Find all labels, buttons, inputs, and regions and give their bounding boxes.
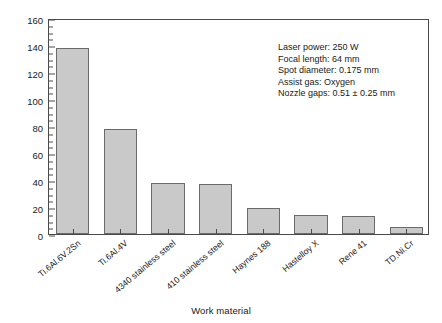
y-tick-minor <box>49 87 53 88</box>
y-tick-minor <box>49 26 53 27</box>
y-tick-major <box>49 74 55 75</box>
annotation-line-assist-gas: Assist gas: Oxygen <box>278 77 395 89</box>
y-tick-minor <box>49 40 53 41</box>
x-tick <box>263 229 264 234</box>
y-tick-minor <box>49 148 53 149</box>
y-tick-label: 60 <box>32 150 43 161</box>
x-tick <box>216 229 217 234</box>
y-tick-major <box>49 101 55 102</box>
y-tick-minor <box>49 222 53 223</box>
y-tick-label: 0 <box>38 231 43 242</box>
y-tick-major <box>49 209 55 210</box>
y-tick-minor <box>49 195 53 196</box>
x-tick-label-text: Ti.6Al.4V <box>97 238 130 268</box>
x-tick-label-text: Ti.6Al.6V.2Sn <box>36 238 82 279</box>
x-tick <box>120 229 121 234</box>
y-tick-major <box>49 128 55 129</box>
x-tick-label-text: Haynes 188 <box>231 238 273 275</box>
y-tick-major <box>49 20 55 21</box>
annotation-line-laser-power: Laser power: 250 W <box>278 42 395 54</box>
y-tick-minor <box>49 202 53 203</box>
x-tick-label-text: Rene 41 <box>336 238 368 267</box>
y-tick-major <box>49 182 55 183</box>
y-tick-major <box>49 47 55 48</box>
y-tick-major <box>49 155 55 156</box>
y-tick-minor <box>49 134 53 135</box>
y-tick-minor <box>49 114 53 115</box>
x-axis-title: Work material <box>0 305 442 316</box>
y-tick-minor <box>49 80 53 81</box>
y-tick-label: 160 <box>27 15 43 26</box>
annotation-line-spot-diameter: Spot diameter: 0.175 mm <box>278 65 395 77</box>
y-tick-minor <box>49 121 53 122</box>
y-tick-label: 40 <box>32 177 43 188</box>
y-tick-minor <box>49 67 53 68</box>
bar <box>56 48 89 234</box>
y-tick-minor <box>49 53 53 54</box>
y-tick-label: 80 <box>32 123 43 134</box>
x-tick <box>73 229 74 234</box>
x-tick <box>168 229 169 234</box>
y-tick-label: 120 <box>27 69 43 80</box>
annotation-line-nozzle-gaps: Nozzle gaps: 0.51 ± 0.25 mm <box>278 88 395 100</box>
y-tick-minor <box>49 141 53 142</box>
y-tick-minor <box>49 33 53 34</box>
plot-area: 020406080100120140160 Laser power: 250 W… <box>48 19 429 235</box>
x-tick <box>406 229 407 234</box>
y-tick-minor <box>49 168 53 169</box>
y-tick-major <box>49 236 55 237</box>
bar <box>151 183 184 234</box>
y-tick-minor <box>49 161 53 162</box>
x-tick <box>311 229 312 234</box>
y-tick-label: 20 <box>32 204 43 215</box>
y-tick-minor <box>49 94 53 95</box>
annotation-line-focal-length: Focal length: 64 mm <box>278 54 395 66</box>
y-tick-label: 100 <box>27 96 43 107</box>
y-tick-minor <box>49 107 53 108</box>
x-tick <box>359 229 360 234</box>
y-tick-minor <box>49 175 53 176</box>
chart-figure: Cutting rate, mm2/s 02040608010012014016… <box>0 0 442 323</box>
y-tick-minor <box>49 188 53 189</box>
x-tick-label-text: Hastelloy X <box>280 238 320 274</box>
x-tick-label-text: TD.Ni.Cr <box>383 238 415 267</box>
y-tick-minor <box>49 229 53 230</box>
y-tick-minor <box>49 215 53 216</box>
y-tick-label: 140 <box>27 42 43 53</box>
y-tick-minor <box>49 60 53 61</box>
parameters-annotation: Laser power: 250 W Focal length: 64 mm S… <box>278 42 395 100</box>
